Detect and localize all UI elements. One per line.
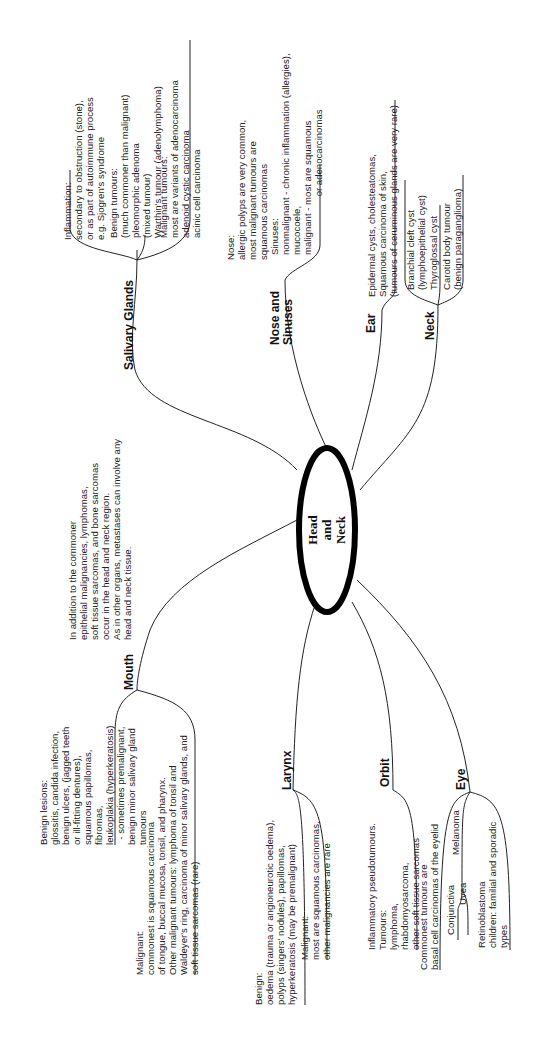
svg-text:mucocoele,: mucocoele,: [291, 206, 302, 255]
svg-text:oedema (trauma or angioneuroti: oedema (trauma or angioneurotic oedema),: [264, 820, 275, 1005]
svg-text:Benign:: Benign:: [253, 972, 264, 1005]
svg-text:Sinuses: Sinuses: [281, 299, 295, 345]
center-node: Head and Neck: [299, 448, 355, 612]
svg-text:pleomorphic adenoma: pleomorphic adenoma: [130, 142, 141, 238]
svg-text:Retinoblastoma: Retinoblastoma: [476, 881, 487, 948]
center-title-line2: and: [319, 519, 334, 541]
svg-text:hyperkeratosis (may be premali: hyperkeratosis (may be premalignant): [286, 844, 297, 1005]
svg-text:squamous papillomas,: squamous papillomas,: [82, 750, 93, 845]
branch-neck: Neck Branchial cleft cyst (lymphoepithel…: [405, 189, 463, 340]
svg-text:Nose:: Nose:: [225, 235, 236, 260]
mind-map-canvas: Head and Neck In addition to the commone…: [0, 0, 545, 1059]
svg-text:malignant - most are squamous: malignant - most are squamous: [302, 120, 313, 255]
svg-text:Carotid body tumour: Carotid body tumour: [441, 202, 452, 290]
svg-text:Orbit: Orbit: [378, 758, 392, 787]
svg-text:Tumours:: Tumours:: [377, 910, 388, 950]
svg-text:Malignant:: Malignant:: [134, 931, 145, 975]
svg-text:(much commoner than malignant): (much commoner than malignant): [119, 95, 130, 238]
svg-text:Thyroglossal cyst: Thyroglossal cyst: [428, 216, 439, 290]
svg-text:Nose and: Nose and: [268, 291, 282, 345]
svg-text:occur in the head and neck reg: occur in the head and neck region.: [100, 493, 111, 640]
svg-text:Other malignant tumours: lymph: Other malignant tumours: lymphoma of ton…: [167, 765, 178, 975]
svg-text:acinic cell carcinoma: acinic cell carcinoma: [191, 149, 202, 238]
svg-text:Benign lesions:: Benign lesions:: [38, 780, 49, 845]
branch-salivary-glands: Salivary Glands Inflammation: secondary …: [62, 79, 202, 370]
svg-text:soft tissue sarcomas, and bone: soft tissue sarcomas, and bone sarcomas: [89, 463, 100, 640]
svg-text:types: types: [498, 925, 509, 948]
svg-text:benign ulcers, (jagged teeth: benign ulcers, (jagged teeth: [60, 727, 71, 845]
branch-ear: Ear Epidermal cysts, cholesteatomas, Squ…: [364, 105, 399, 333]
svg-text:lymphoma,: lymphoma,: [388, 903, 399, 950]
center-title-line1: Head: [305, 514, 320, 544]
svg-text:soft tissue sarcomas (rare): soft tissue sarcomas (rare): [189, 861, 200, 975]
salivary-title: Salivary Glands: [122, 280, 136, 370]
svg-text:Ear: Ear: [364, 313, 378, 333]
svg-text:Malignant tumours:: Malignant tumours:: [158, 156, 169, 238]
svg-text:In addition to the commoner: In addition to the commoner: [67, 520, 78, 640]
svg-text:Benign tumours:: Benign tumours:: [108, 168, 119, 238]
svg-text:Malignant:: Malignant:: [299, 916, 310, 960]
svg-text:Epidermal cysts, cholesteatoma: Epidermal cysts, cholesteatomas,: [366, 154, 377, 297]
svg-text:leukoplakia (hyperkeratosis): leukoplakia (hyperkeratosis): [104, 726, 115, 845]
svg-text:adenoid cystic carcinoma: adenoid cystic carcinoma: [180, 130, 191, 238]
svg-text:or ill-fitting dentures),: or ill-fitting dentures),: [71, 755, 82, 845]
svg-text:Branchial cleft cyst: Branchial cleft cyst: [405, 210, 416, 290]
center-title-line3: Neck: [333, 515, 348, 544]
svg-text:glossitis, candida infection,: glossitis, candida infection,: [49, 731, 60, 845]
svg-text:polyps (singers' nodules), pap: polyps (singers' nodules), papillomas,: [275, 845, 286, 1005]
branch-nose-sinuses: Nose and Sinuses Nose: allergic polyps a…: [225, 53, 324, 345]
svg-text:(mixed tumour): (mixed tumour): [141, 173, 152, 238]
svg-text:Melanoma: Melanoma: [450, 810, 461, 855]
svg-text:most malignant tumours are: most malignant tumours are: [247, 141, 258, 260]
svg-text:secondary to obstruction (ston: secondary to obstruction (stone),: [73, 100, 84, 240]
svg-text:fibromas,: fibromas,: [93, 806, 104, 845]
branch-mouth: Mouth Benign lesions: glossitis, candida…: [38, 654, 200, 975]
svg-text:Larynx: Larynx: [280, 750, 294, 790]
svg-text:head and neck tissue.: head and neck tissue.: [122, 547, 133, 640]
svg-text:e.g. Sjogren's syndrome: e.g. Sjogren's syndrome: [95, 137, 106, 240]
svg-text:Waldeyer's ring, carcinoma of: Waldeyer's ring, carcinoma of minor sali…: [178, 735, 189, 975]
svg-text:Inflammation:: Inflammation:: [62, 182, 73, 240]
svg-text:(lymphoepithelial cyst): (lymphoepithelial cyst): [416, 195, 427, 290]
svg-text:of tongue, buccal mucosa, tons: of tongue, buccal mucosa, tonsil, and ph…: [156, 777, 167, 975]
svg-text:children: familial and sporadi: children: familial and sporadic: [487, 821, 498, 948]
svg-text:most are variants of adenocarc: most are variants of adenocarcinoma: [169, 79, 180, 238]
intro-note: In addition to the commoner epithelial m…: [67, 439, 133, 640]
svg-text:Mouth: Mouth: [122, 654, 136, 690]
svg-text:or adenocarcinomas: or adenocarcinomas: [313, 109, 324, 255]
svg-text:As in other organs, metastases: As in other organs, metastases can invol…: [111, 439, 122, 640]
branch-orbit: Orbit Inflammatory pseudotumours. Tumour…: [366, 758, 421, 950]
svg-text:Sinuses:: Sinuses:: [269, 218, 280, 255]
svg-text:allergic polyps are very commo: allergic polyps are very common,: [236, 120, 247, 260]
svg-text:Squamous carcinoma of skin,: Squamous carcinoma of skin,: [377, 171, 388, 297]
svg-text:Conjunctiva: Conjunctiva: [445, 884, 456, 935]
svg-text:most are squamous carcinomas,: most are squamous carcinomas,: [310, 821, 321, 960]
branch-eye: Eye Commonest tumours are basal cell car…: [418, 768, 509, 970]
svg-text:benign minor salivary gland: benign minor salivary gland: [126, 728, 137, 845]
svg-text:Commonest tumours are: Commonest tumours are: [418, 864, 429, 970]
svg-text:Eye: Eye: [454, 768, 468, 790]
svg-text:nonmalignant - chronic inflamm: nonmalignant - chronic inflammation (all…: [280, 53, 291, 255]
svg-text:or as part of autoimmune proce: or as part of autoimmune process: [84, 97, 95, 240]
svg-text:commonest is squamous carcinom: commonest is squamous carcinoma: [145, 821, 156, 975]
svg-text:(tumours of ceruminous glands: (tumours of ceruminous glands are very r…: [388, 105, 399, 297]
svg-text:(benign paraganglioma): (benign paraganglioma): [452, 189, 463, 290]
svg-text:Neck: Neck: [423, 311, 437, 340]
svg-text:Uvea: Uvea: [457, 882, 468, 905]
svg-text:rhabdomyosarcoma,: rhabdomyosarcoma,: [399, 863, 410, 950]
svg-text:- sometimes premalignant,: - sometimes premalignant,: [115, 727, 126, 845]
branch-larynx: Larynx Benign: oedema (trauma or angione…: [253, 750, 332, 1005]
svg-text:other malignancies are rare: other malignancies are rare: [321, 843, 332, 960]
svg-text:Inflammatory pseudotumours.: Inflammatory pseudotumours.: [366, 823, 377, 950]
svg-text:basal cell carcinomas of the e: basal cell carcinomas of the eyelid: [429, 824, 440, 970]
svg-text:squamous carcinomas: squamous carcinomas: [258, 164, 269, 260]
svg-text:epithelial malignancies, lymph: epithelial malignancies, lymphomas,: [78, 486, 89, 640]
